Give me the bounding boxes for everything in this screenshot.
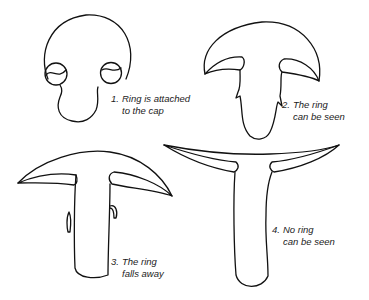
mushroom-stage-4 <box>164 145 339 286</box>
stage-3-label: 3.The ring falls away <box>111 256 164 280</box>
stage-caption-line1: No ring <box>283 224 314 235</box>
stage-caption-line2: to the cap <box>111 105 190 117</box>
stage-caption-line1: The ring <box>293 99 328 110</box>
stage-caption-line2: falls away <box>111 268 164 280</box>
stage-caption-line2: can be seen <box>282 111 345 123</box>
stage-2-label: 2.The ring can be seen <box>282 99 345 123</box>
stage-caption-line2: can be seen <box>272 236 335 248</box>
stage-4-label: 4.No ring can be seen <box>272 224 335 248</box>
mushroom-diagram <box>0 0 369 300</box>
stage-number: 4. <box>272 224 283 236</box>
stage-caption-line1: Ring is attached <box>122 93 190 104</box>
stage-caption-line1: The ring <box>122 256 157 267</box>
stage-number: 3. <box>111 256 122 268</box>
stage-number: 1. <box>111 93 122 105</box>
stage-1-label: 1.Ring is attached to the cap <box>111 93 190 117</box>
stage-number: 2. <box>282 99 293 111</box>
